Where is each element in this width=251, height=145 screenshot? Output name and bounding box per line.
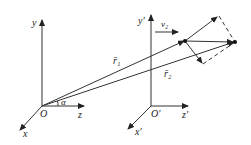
point-1 (183, 39, 187, 43)
dashed-lower (203, 42, 235, 64)
frame-right: y' z' x' O' (128, 15, 189, 137)
x-axis (20, 106, 42, 130)
r2-label: r̄₂ (164, 68, 172, 79)
position-vectors: r̄₁ r̄₂ (42, 41, 234, 106)
frame-left: y z x O α (20, 17, 84, 139)
origin-prime-label: O' (151, 108, 161, 119)
r2-vector (42, 42, 234, 106)
component-down-vector (185, 41, 202, 63)
v2-arrow-group: v₂ (155, 19, 178, 32)
relative-motion-diagram: y z x O α y' z' x' O' v₂ r̄₁ r̄₂ (0, 0, 251, 145)
displacement-vector (185, 41, 233, 42)
r1-label: r̄₁ (113, 55, 120, 66)
y-prime-axis-label: y' (137, 15, 145, 26)
x-prime-axis-label: x' (134, 126, 142, 137)
z-prime-axis-label: z' (181, 109, 189, 120)
r1-vector (42, 41, 184, 106)
point-2 (233, 40, 237, 44)
origin-label: O (40, 108, 47, 119)
z-axis-label: z (77, 109, 82, 120)
dashed-upper (219, 16, 235, 42)
v2-label: v₂ (161, 19, 168, 29)
y-axis-label: y (31, 17, 37, 28)
angle-arc (58, 101, 59, 106)
component-up-vector (185, 17, 217, 41)
x-axis-label: x (22, 128, 28, 139)
